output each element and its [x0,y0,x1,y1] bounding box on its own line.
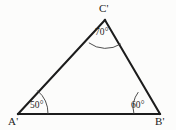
angle-measure-label-a: 50° [30,101,44,111]
triangle-drawing-canvas [0,0,176,130]
angle-measure-label-b: 60° [131,101,145,111]
vertex-label-a: A' [8,116,18,127]
vertex-label-c: C' [99,3,109,14]
angle-arc-c [89,43,121,49]
triangle-diagram-figure: A' B' C' 50° 60° 70° [0,0,176,130]
vertex-label-b: B' [155,116,165,127]
angle-measure-label-c: 70° [95,28,109,38]
